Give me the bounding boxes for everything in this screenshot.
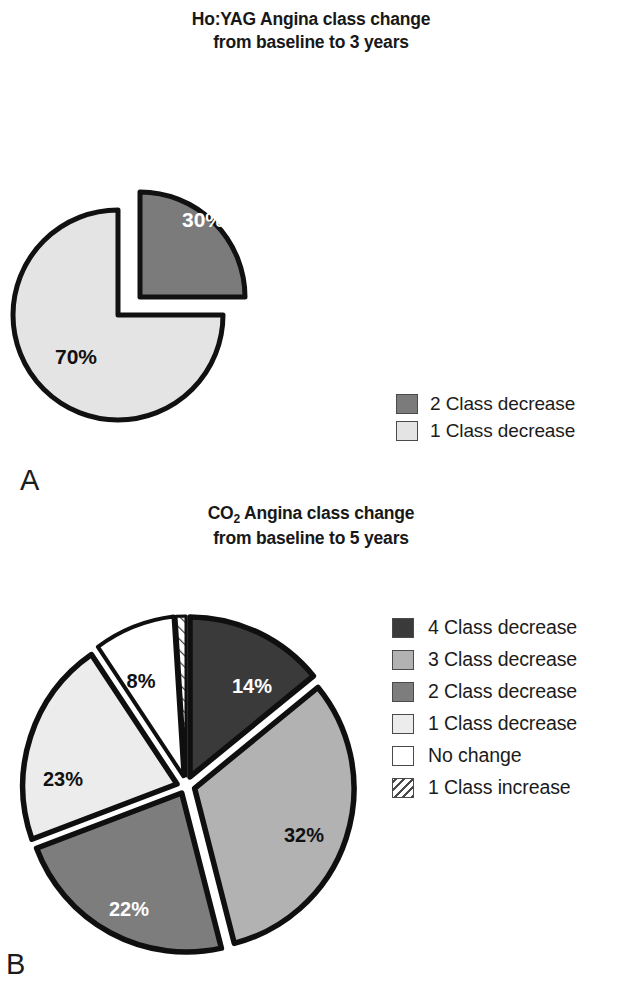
- legend-item-4-class-decrease[interactable]: 4 Class decrease: [392, 612, 577, 644]
- panel-a-legend: 2 Class decrease 1 Class decrease: [396, 390, 575, 444]
- legend-swatch-no-change: [392, 746, 414, 766]
- legend-item-2-class-decrease[interactable]: 2 Class decrease: [396, 390, 575, 417]
- panel-b-legend: 4 Class decrease 3 Class decrease 2 Clas…: [392, 612, 577, 804]
- legend-swatch-2-class-decrease: [392, 682, 414, 702]
- legend-item-2-class-decrease[interactable]: 2 Class decrease: [392, 676, 577, 708]
- panel-b-title-line1-post: Angina class change: [240, 503, 414, 523]
- legend-swatch-3-class-decrease: [392, 650, 414, 670]
- panel-a-title-line2: from baseline to 3 years: [0, 31, 622, 54]
- legend-item-1-class-increase[interactable]: 1 Class increase: [392, 772, 577, 804]
- legend-label-4-class-decrease: 4 Class decrease: [428, 618, 577, 638]
- panel-a-title: Ho:YAG Angina class change from baseline…: [0, 8, 622, 54]
- panel-b-label-32: 32%: [284, 824, 324, 846]
- panel-b-title: CO2 Angina class change from baseline to…: [0, 502, 622, 550]
- legend-item-no-change[interactable]: No change: [392, 740, 577, 772]
- panel-b-label-14: 14%: [232, 675, 272, 697]
- legend-swatch-1-class-increase: [392, 778, 414, 798]
- panel-a-label-30: 30%: [182, 208, 224, 231]
- legend-label-2-class-decrease: 2 Class decrease: [430, 394, 575, 413]
- panel-a-label-70: 70%: [55, 345, 97, 368]
- legend-swatch-4-class-decrease: [392, 618, 414, 638]
- figure-root: Ho:YAG Angina class change from baseline…: [0, 0, 622, 989]
- legend-label-1-class-decrease: 1 Class decrease: [428, 714, 577, 734]
- panel-a-title-line1: Ho:YAG Angina class change: [192, 9, 431, 29]
- legend-label-1-class-increase: 1 Class increase: [428, 778, 571, 798]
- legend-swatch-1-class-decrease: [392, 714, 414, 734]
- panel-a-letter: A: [20, 466, 39, 495]
- panel-b-pie-chart: 14% 32% 22% 23% 8%: [6, 600, 378, 989]
- panel-b-label-23: 23%: [43, 768, 83, 790]
- legend-item-3-class-decrease[interactable]: 3 Class decrease: [392, 644, 577, 676]
- legend-swatch-1-class-decrease: [396, 421, 418, 441]
- panel-b-label-8: 8%: [127, 670, 156, 692]
- panel-b-label-22: 22%: [109, 898, 149, 920]
- panel-b-svg: 14% 32% 22% 23% 8%: [6, 600, 378, 989]
- panel-b-title-co2-pre: CO: [208, 503, 234, 523]
- panel-b-title-line2: from baseline to 5 years: [0, 527, 622, 550]
- panel-b-letter: B: [6, 950, 25, 979]
- legend-item-1-class-decrease[interactable]: 1 Class decrease: [396, 417, 575, 444]
- legend-item-1-class-decrease[interactable]: 1 Class decrease: [392, 708, 577, 740]
- legend-label-no-change: No change: [428, 746, 521, 766]
- panel-b-title-co2-subscript: 2: [234, 512, 240, 526]
- legend-label-1-class-decrease: 1 Class decrease: [430, 421, 575, 440]
- panel-a-pie-chart: 30% 70%: [0, 92, 400, 492]
- legend-label-3-class-decrease: 3 Class decrease: [428, 650, 577, 670]
- legend-swatch-2-class-decrease: [396, 394, 418, 414]
- legend-label-2-class-decrease: 2 Class decrease: [428, 682, 577, 702]
- panel-a-svg: 30% 70%: [0, 92, 400, 492]
